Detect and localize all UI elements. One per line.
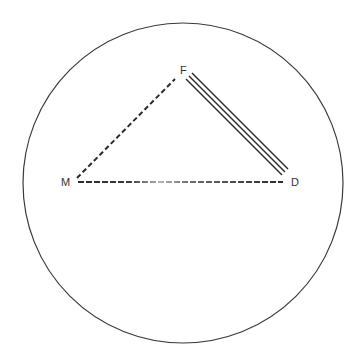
node-label-m: M xyxy=(61,176,70,188)
edge-f-d-triple xyxy=(186,73,288,175)
edge-m-f-dashed xyxy=(77,79,175,178)
node-label-d: D xyxy=(291,176,299,188)
node-label-f: F xyxy=(180,64,187,76)
diagram-canvas: F M D xyxy=(0,0,360,359)
